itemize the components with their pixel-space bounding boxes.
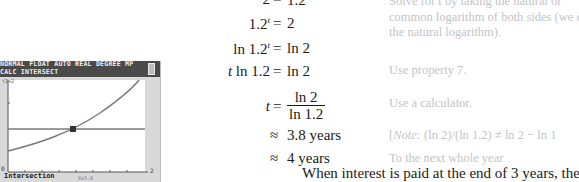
equation-lhs: t ln 1.2 (228, 63, 270, 80)
fraction-numerator: ln 2 (287, 89, 325, 106)
y-axis-min-label: 0 (1, 165, 5, 172)
equation-row: 1.2t = 2 (200, 15, 375, 35)
equation-row: ≈ 3.8 years (200, 127, 375, 147)
equation-lhs: 1.2t (249, 15, 270, 33)
equation-rhs: 2 (287, 15, 295, 32)
calculator-screen: NORMAL FLOAT AUTO REAL DEGREE MP CALC IN… (0, 61, 161, 182)
equals-sign: = (273, 40, 281, 57)
coordinate-label: X=3.8 (78, 175, 93, 181)
equation-rhs: 1.2t (287, 0, 308, 9)
equals-sign: = (273, 98, 281, 115)
equation-rhs: ln 2 (287, 63, 310, 80)
fraction-denominator: ln 1.2 (287, 106, 325, 122)
intersection-cursor (70, 126, 76, 132)
equation-lhs: t (266, 98, 270, 115)
equation-lhs: ln 1.2t (233, 40, 270, 58)
step-note: Use a calculator. (389, 96, 472, 111)
step-note: Use property 7. (389, 63, 466, 78)
approx-sign: ≈ (270, 127, 278, 144)
equation-rhs: 3.8 years (287, 127, 341, 144)
step-note: the natural logarithm). (389, 25, 501, 40)
step-note: common logarithm of both sides (we ch (389, 10, 579, 25)
equation-row: ln 1.2t = ln 2 (200, 40, 375, 60)
equation-row: 2 = 1.2t (200, 0, 375, 11)
x-axis-max-label: 2 (150, 167, 154, 174)
equals-sign: = (273, 15, 281, 32)
intersection-label: Intersection (4, 172, 55, 180)
graph-plot (0, 61, 160, 182)
body-text: When interest is paid at the end of 3 ye… (302, 165, 579, 182)
equals-sign: = (273, 0, 281, 8)
step-note: To the next whole year (389, 151, 503, 166)
step-note: [Note: (ln 2)/(ln 1.2) ≠ ln 2 − ln 1 (389, 128, 556, 143)
fraction: ln 2 ln 1.2 (287, 89, 325, 122)
approx-sign: ≈ (270, 150, 278, 167)
equation-label: Y2=2 (2, 78, 14, 84)
equation-row: t ln 1.2 = ln 2 (200, 63, 375, 83)
step-note: Solve for t by taking the natural or (389, 0, 562, 9)
equation-rhs: ln 2 (287, 40, 310, 57)
equals-sign: = (273, 63, 281, 80)
equation-row: t = ln 2 ln 1.2 (200, 89, 375, 125)
equation-lhs: 2 (263, 0, 271, 8)
